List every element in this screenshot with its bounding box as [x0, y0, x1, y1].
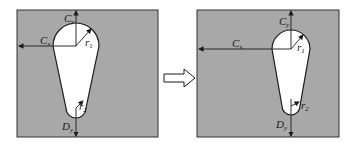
plate [197, 10, 339, 137]
transform-arrow-icon [164, 69, 195, 87]
left-panel: Cy Cx r1 r2 Dy [17, 10, 158, 137]
right-panel: Cy Cx r1 r2 Dy [197, 10, 339, 137]
diagram-canvas: Cy Cx r1 r2 Dy Cy Cx r1 r2 Dy [0, 0, 356, 148]
